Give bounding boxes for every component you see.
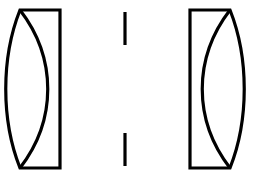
right-lens-group	[190, 10, 244, 168]
lens-diagram-canvas	[0, 0, 259, 176]
left-lens-group	[6, 10, 60, 168]
optical-system-diagram	[0, 0, 259, 176]
left-lens-body-outline	[6, 10, 60, 168]
right-lens-body-outline	[190, 10, 244, 168]
